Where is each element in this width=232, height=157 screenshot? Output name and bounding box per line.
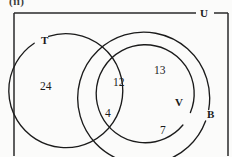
set-t-circle	[9, 34, 123, 148]
venn-diagram-figure: (ii) T B V U 24 12 13 4 7	[0, 0, 232, 157]
universe-label-u: U	[200, 7, 208, 19]
region-count-b-only: 7	[160, 124, 166, 136]
set-label-t: T	[41, 34, 49, 46]
venn-diagram-canvas: T B V U 24 12 13 4 7	[0, 0, 232, 157]
set-label-b: B	[207, 108, 215, 120]
region-count-v-only: 13	[154, 64, 166, 76]
region-count-t-only: 24	[40, 80, 52, 92]
region-count-t-and-v: 12	[113, 76, 125, 88]
set-label-v: V	[175, 96, 183, 108]
region-count-t-and-b: 4	[105, 107, 111, 119]
set-v-circle	[96, 45, 194, 143]
